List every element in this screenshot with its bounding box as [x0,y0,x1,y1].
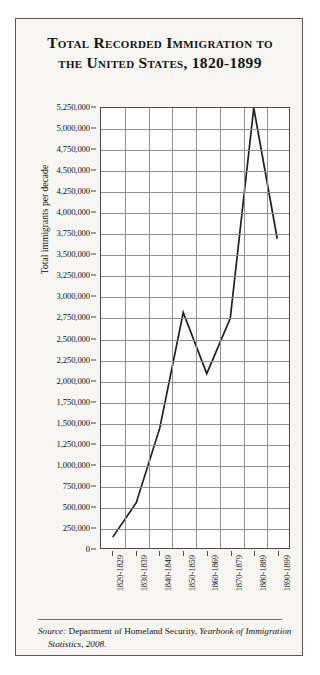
gridline-horizontal [101,192,289,193]
y-axis-tick-mark [91,401,96,402]
page-background: Total Recorded Immigration to the United… [0,0,320,675]
y-axis-tick-label: 4,250,000 [57,186,90,196]
source-agency: Department of Homeland Security, [66,626,199,636]
y-axis-tick-label: 5,250,000 [57,102,90,112]
y-axis-tick-label: 3,250,000 [57,270,90,280]
y-axis-tick-mark [91,422,96,423]
source-divider [38,619,282,620]
x-axis-labels: 1820-18291830-18391840-18491850-18591860… [100,551,290,615]
page-title-line-1: Total Recorded Immigration to [30,33,290,53]
x-axis-tick-mark [159,551,160,556]
y-axis-tick-label: 1,250,000 [57,439,90,449]
y-axis-tick-mark [91,149,96,150]
y-axis-tick-label: 4,000,000 [57,207,90,217]
x-axis-tick-mark [207,551,208,556]
gridline-horizontal [101,276,289,277]
y-axis-tick-label: 2,750,000 [57,312,90,322]
source-note: Source: Department of Homeland Security,… [38,625,296,652]
y-axis-tick-mark [91,359,96,360]
y-axis-tick-mark [91,338,96,339]
gridline-horizontal [101,129,289,130]
y-axis-tick-mark [91,296,96,297]
gridline-vertical [149,108,150,548]
gridline-vertical [196,108,197,548]
x-axis-tick-label: 1840-1849 [163,555,173,591]
gridline-horizontal [101,234,289,235]
gridline-vertical [244,108,245,548]
x-axis-tick-label: 1870-1879 [234,555,244,591]
x-axis-tick-mark [231,551,232,556]
gridline-horizontal [101,487,289,488]
y-axis-tick-mark [91,464,96,465]
y-axis-tick-label: 1,750,000 [57,397,90,407]
gridline-horizontal [101,403,289,404]
y-axis-tick-label: 4,500,000 [57,165,90,175]
x-axis-tick-label: 1830-1839 [139,555,149,591]
y-axis-tick-label: 0 [86,544,90,554]
y-axis-tick-label: 500,000 [63,502,90,512]
x-axis-tick-mark [183,551,184,556]
y-axis-tick-label: 1,000,000 [57,460,90,470]
data-line [113,108,278,537]
y-axis-labels: 5,250,0005,000,0004,750,0004,500,0004,25… [16,107,96,549]
gridline-horizontal [101,466,289,467]
gridline-horizontal [101,213,289,214]
y-axis-tick-label: 2,500,000 [57,334,90,344]
gridline-vertical [220,108,221,548]
gridline-vertical [125,108,126,548]
y-axis-tick-mark [91,128,96,129]
gridline-horizontal [101,318,289,319]
immigration-line-series [101,108,289,548]
x-axis-tick-label: 1890-1899 [282,555,292,591]
y-axis-tick-mark [91,485,96,486]
gridline-horizontal [101,361,289,362]
gridline-horizontal [101,297,289,298]
y-axis-tick-label: 3,000,000 [57,291,90,301]
gridline-horizontal [101,171,289,172]
y-axis-tick-mark [91,317,96,318]
y-axis-tick-mark [91,254,96,255]
y-axis-tick-mark [91,233,96,234]
x-axis-tick-mark [112,551,113,556]
gridline-horizontal [101,508,289,509]
gridline-horizontal [101,424,289,425]
y-axis-tick-mark [91,506,96,507]
figure-card: Total Recorded Immigration to the United… [15,18,303,656]
y-axis-tick-mark [91,275,96,276]
gridline-horizontal [101,529,289,530]
y-axis-tick-label: 3,750,000 [57,228,90,238]
y-axis-tick-label: 2,250,000 [57,355,90,365]
y-axis-tick-label: 5,000,000 [57,123,90,133]
page-title: Total Recorded Immigration to the United… [30,33,290,73]
x-axis-tick-label: 1850-1859 [187,555,197,591]
y-axis-tick-mark [91,191,96,192]
x-axis-tick-label: 1820-1829 [115,555,125,591]
gridline-vertical [172,108,173,548]
y-axis-tick-mark [91,527,96,528]
y-axis-tick-label: 1,500,000 [57,418,90,428]
y-axis-tick-label: 750,000 [63,481,90,491]
page-title-line-2: the United States, 1820-1899 [30,53,290,73]
y-axis-tick-mark [91,549,96,550]
gridline-horizontal [101,255,289,256]
x-axis-tick-mark [136,551,137,556]
y-axis-tick-label: 2,000,000 [57,376,90,386]
x-axis-tick-mark [278,551,279,556]
chart-plot-area [100,107,290,549]
x-axis-tick-label: 1860-1869 [210,555,220,591]
gridline-horizontal [101,382,289,383]
gridline-vertical [267,108,268,548]
y-axis-tick-label: 4,750,000 [57,144,90,154]
y-axis-tick-label: 250,000 [63,523,90,533]
gridline-horizontal [101,340,289,341]
y-axis-tick-mark [91,380,96,381]
y-axis-tick-mark [91,443,96,444]
gridline-horizontal [101,150,289,151]
x-axis-tick-mark [254,551,255,556]
gridline-horizontal [101,445,289,446]
y-axis-tick-mark [91,212,96,213]
y-axis-tick-mark [91,170,96,171]
source-label: Source: [38,626,66,636]
x-axis-tick-label: 1880-1889 [258,555,268,591]
y-axis-tick-mark [91,107,96,108]
